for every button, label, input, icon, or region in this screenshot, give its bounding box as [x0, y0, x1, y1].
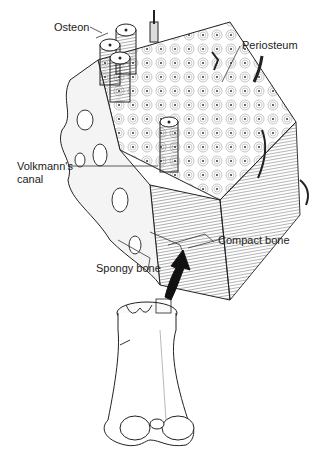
label-periosteum: Periosteum — [242, 39, 298, 52]
label-osteon: Osteon — [54, 21, 89, 34]
label-spongy-bone: Spongy bone — [96, 262, 161, 275]
bone-diagram — [0, 0, 316, 456]
long-bone — [104, 299, 194, 446]
label-volkmann-line2: canal — [17, 173, 43, 186]
label-compact-bone: Compact bone — [218, 234, 290, 247]
label-volkmann-line1: Volkmann's — [17, 160, 73, 173]
